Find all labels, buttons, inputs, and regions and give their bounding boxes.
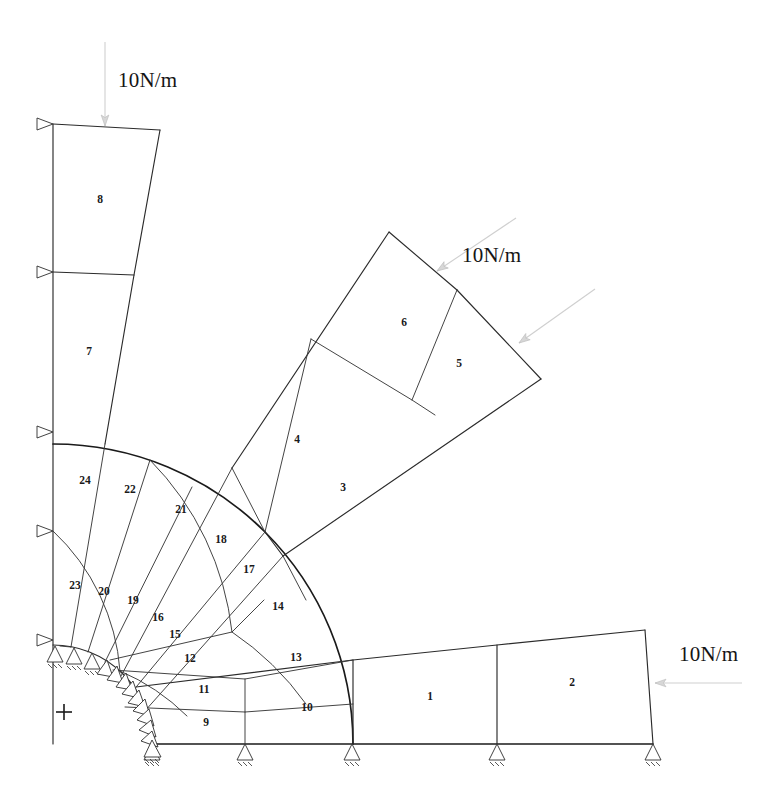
roller-support-bottom-3 <box>344 744 360 766</box>
roller-support-bottom-5 <box>645 744 661 766</box>
roller-support-left-3 <box>37 426 53 438</box>
element-label-5: 5 <box>456 357 462 369</box>
origin-marker <box>56 704 72 720</box>
element-label-12: 12 <box>184 652 196 664</box>
top-edge-element-8 <box>53 124 160 130</box>
divider-9-11 <box>125 704 353 712</box>
load-arrow-upper-right-b <box>519 289 595 343</box>
element-label-14: 14 <box>272 600 284 612</box>
element-label-21: 21 <box>175 503 187 515</box>
element-label-9: 9 <box>203 716 209 728</box>
divider-6-5 <box>412 290 457 400</box>
element-label-7: 7 <box>86 345 92 357</box>
element-label-18: 18 <box>215 533 227 545</box>
element-label-2: 2 <box>569 676 575 688</box>
right-vertical-edge-element-2 <box>645 630 653 744</box>
outer-arc-edge <box>53 444 265 532</box>
element-label-8: 8 <box>97 193 103 205</box>
arm-right-edge-5 <box>283 379 541 556</box>
roller-support-left-2 <box>37 266 53 278</box>
element-label-6: 6 <box>401 316 407 328</box>
roller-support-bottom-4 <box>489 744 505 766</box>
arm-right-edge-3-lower <box>265 532 283 556</box>
divider-4-6-row <box>265 339 311 532</box>
roller-support-corner-2 <box>66 648 82 670</box>
element-label-4: 4 <box>294 433 300 445</box>
arm-apex-edge-upper <box>389 232 457 290</box>
element-label-11: 11 <box>199 683 210 695</box>
element-label-20: 20 <box>98 585 110 597</box>
arm-left-edge <box>232 232 389 468</box>
divider-3-4 <box>311 339 435 415</box>
load-arrows <box>105 42 742 683</box>
divider-7-8 <box>53 272 134 275</box>
element-label-22: 22 <box>124 483 136 495</box>
roller-support-left-4 <box>37 525 53 537</box>
roller-support-left-1 <box>37 118 53 130</box>
roller-support-corner-1 <box>47 646 63 668</box>
arm-edge-5-upper <box>457 290 541 379</box>
divider-11-13-row <box>113 660 353 679</box>
roller-support-left-5 <box>37 634 53 646</box>
element-label-1: 1 <box>427 690 433 702</box>
element-label-10: 10 <box>301 701 313 713</box>
bottom-edge-supports <box>144 744 661 766</box>
load-label-right: 10N/m <box>679 642 738 666</box>
element-label-19: 19 <box>127 594 139 606</box>
mesh-outline <box>53 124 653 744</box>
outer-mid-concentric-arc-b <box>232 632 306 704</box>
load-label-upper-right: 10N/m <box>462 243 521 267</box>
load-label-top: 10N/m <box>118 68 177 92</box>
element-label-3: 3 <box>340 481 346 493</box>
right-slant-edge-column <box>105 130 160 444</box>
element-label-24: 24 <box>79 474 91 486</box>
fea-mesh-canvas: 10N/m 10N/m 10N/m 1 2 3 4 5 6 7 8 9 10 1… <box>0 0 767 792</box>
left-edge-supports <box>37 118 53 646</box>
element-label-15: 15 <box>169 628 181 640</box>
fea-mesh-figure: 10N/m 10N/m 10N/m 1 2 3 4 5 6 7 8 9 10 1… <box>0 0 767 792</box>
element-label-17: 17 <box>243 563 255 575</box>
upper-right-arm <box>232 232 541 556</box>
element-label-13: 13 <box>290 651 302 663</box>
roller-support-corner-3 <box>84 653 100 675</box>
roller-support-bottom-2 <box>237 744 253 766</box>
element-label-16: 16 <box>152 611 164 623</box>
divider-4-lower <box>232 468 265 532</box>
element-label-23: 23 <box>69 579 81 591</box>
load-labels: 10N/m 10N/m 10N/m <box>118 68 738 666</box>
element-number-labels: 1 2 3 4 5 6 7 8 9 10 11 12 13 14 15 16 1… <box>69 193 575 728</box>
